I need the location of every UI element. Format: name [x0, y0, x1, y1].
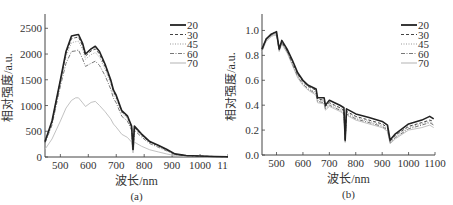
panel-caption: (a) — [130, 190, 143, 203]
plot-area — [262, 32, 434, 144]
x-tick-label: 600 — [295, 157, 312, 169]
y-tick-label: 0.8 — [245, 49, 259, 61]
plot-area — [45, 35, 228, 157]
series-line-60 — [45, 50, 228, 157]
x-tick-label: 900 — [374, 157, 391, 169]
y-tick-label: 0.2 — [245, 124, 259, 136]
y-tick-label: 0.0 — [245, 149, 259, 161]
y-tick-label: 500 — [26, 125, 43, 137]
series-line-45 — [45, 41, 228, 157]
axes: 500600700800900100011000.00.20.40.60.81.… — [245, 14, 446, 169]
chart-panel-a: 5006007008009001000110005001000150020002… — [0, 0, 228, 205]
series-line-20 — [45, 35, 228, 157]
panel-caption: (b) — [342, 188, 355, 201]
y-axis-title: 相对强度/a.u. — [0, 53, 15, 122]
x-tick-label: 500 — [52, 159, 69, 171]
legend: 2030456070 — [401, 19, 430, 69]
x-tick-label: 1000 — [398, 157, 421, 169]
x-tick-label: 700 — [108, 159, 125, 171]
x-tick-label: 700 — [321, 157, 338, 169]
series-line-30 — [45, 37, 228, 157]
x-tick-label: 800 — [136, 159, 153, 171]
chart-a: 5006007008009001000110005001000150020002… — [0, 0, 228, 205]
x-tick-label: 800 — [348, 157, 365, 169]
x-tick-label: 1000 — [189, 159, 212, 171]
x-tick-label: 600 — [80, 159, 97, 171]
chart-b: 500600700800900100011000.00.20.40.60.81.… — [225, 0, 453, 205]
y-axis-title: 相对强度/a.u. — [225, 52, 238, 121]
x-axis-title: 波长/nm — [115, 174, 158, 188]
legend-label-70: 70 — [187, 57, 199, 69]
x-axis-title: 波长/nm — [327, 172, 370, 186]
y-tick-label: 0.6 — [245, 74, 259, 86]
legend-label-70: 70 — [418, 57, 430, 69]
x-tick-label: 500 — [268, 157, 285, 169]
y-tick-label: 0 — [37, 151, 43, 163]
chart-panel-b: 500600700800900100011000.00.20.40.60.81.… — [225, 0, 453, 205]
x-tick-label: 900 — [164, 159, 181, 171]
y-tick-label: 1000 — [20, 100, 43, 112]
legend: 2030456070 — [170, 19, 199, 69]
x-tick-label: 1100 — [424, 157, 446, 169]
y-tick-label: 2000 — [20, 48, 43, 60]
series-line-20 — [262, 32, 434, 140]
y-tick-label: 1500 — [20, 74, 43, 86]
y-tick-label: 0.4 — [245, 99, 259, 111]
y-tick-label: 1.0 — [245, 24, 259, 36]
y-tick-label: 2500 — [20, 22, 43, 34]
